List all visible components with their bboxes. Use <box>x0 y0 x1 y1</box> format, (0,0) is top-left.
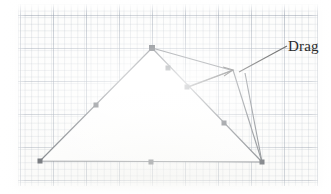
drag-annotation-label: Drag <box>288 38 319 55</box>
diagram-vector-layer <box>0 0 331 194</box>
drag-label-leader <box>239 46 287 72</box>
marker-bottom-right[interactable] <box>260 160 265 165</box>
polygon-interior <box>40 48 262 162</box>
figure-canvas: Drag <box>0 0 331 194</box>
marker-bottom-mid[interactable] <box>149 160 154 165</box>
marker-left-edge-mid[interactable] <box>94 103 99 108</box>
marker-apex[interactable] <box>149 45 155 51</box>
drag-direction-arrow-shaft <box>186 71 231 88</box>
marker-right-upper[interactable] <box>166 66 171 71</box>
marker-right-mid[interactable] <box>185 85 190 90</box>
marker-right-lower[interactable] <box>222 121 227 126</box>
marker-bottom-left[interactable] <box>38 159 43 164</box>
